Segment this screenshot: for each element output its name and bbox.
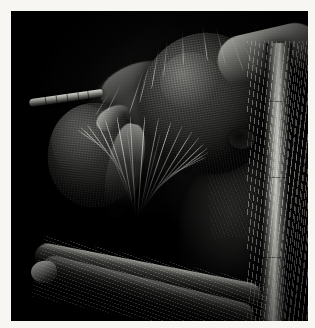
- foreleg-tibia: [260, 43, 292, 321]
- ommatidia-facet-highlight: [43, 98, 145, 211]
- ommatidia-facet-texture: [130, 24, 283, 185]
- tibia-bristles-outer: [269, 41, 308, 321]
- antenna-segment-joint: [87, 91, 89, 99]
- compound-eye-large: [130, 24, 283, 185]
- image-grain: [11, 11, 308, 321]
- antenna-segment-joint: [77, 92, 79, 100]
- foreleg-femur: [213, 18, 308, 90]
- lower-leg-tip: [30, 260, 58, 285]
- eye-specular-highlight: [48, 102, 119, 179]
- background-substrate: [11, 11, 308, 321]
- compound-eye-small: [43, 98, 145, 211]
- occipital-setae: [203, 105, 286, 240]
- vertex-ridge: [95, 54, 186, 118]
- facial-setae-group: [11, 11, 308, 321]
- ommatidia-facet-highlight: [130, 24, 283, 185]
- head-capsule: [83, 61, 233, 211]
- antenna-shaft: [29, 89, 103, 107]
- lower-leg-segment-upper: [33, 241, 264, 310]
- proboscis: [97, 121, 150, 222]
- sem-micrograph-image: [11, 11, 308, 321]
- lower-leg-bristles: [31, 236, 271, 321]
- eye-specular-highlight: [156, 48, 225, 114]
- antenna-segment-joint: [66, 94, 68, 102]
- neck-socket: [229, 129, 255, 149]
- ommatidia-facet-texture: [43, 98, 145, 211]
- photo-frame: [0, 0, 315, 328]
- thorax-region: [181, 161, 301, 321]
- antenna: [28, 85, 104, 111]
- vertex-setae-group: [11, 11, 308, 321]
- lower-leg-segment-lower: [37, 253, 258, 321]
- tibia-bristles: [247, 41, 308, 321]
- antenna-segment-joint: [45, 97, 47, 105]
- image-vignette: [11, 11, 308, 321]
- antenna-segment-joint: [56, 95, 58, 103]
- maxillary-palp: [92, 100, 134, 136]
